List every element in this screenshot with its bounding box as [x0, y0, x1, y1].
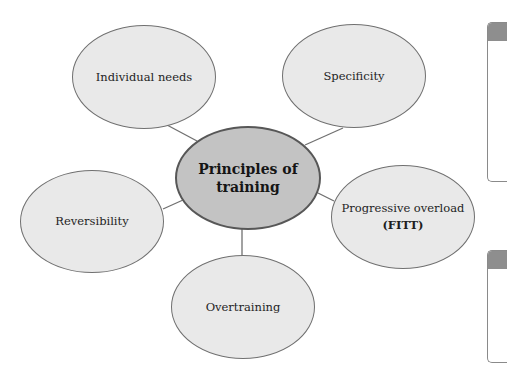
center-node-principles-of-training: Principles of training: [175, 126, 321, 230]
center-label-line1: Principles of: [192, 160, 303, 178]
side-panel-bottom-partial: [487, 250, 507, 363]
connector-reversibility: [163, 200, 183, 209]
connector-individual-needs: [167, 125, 197, 141]
side-panel-header: [488, 23, 507, 41]
side-panel-header: [488, 251, 507, 269]
node-label: Progressive overload: [336, 200, 471, 217]
connector-specificity: [305, 128, 343, 145]
node-specificity: Specificity: [282, 24, 426, 128]
node-sublabel-fitt: (FITT): [382, 217, 423, 234]
center-label-line2: training: [210, 178, 286, 196]
node-label: Reversibility: [49, 213, 134, 230]
connector-progressive-overload: [318, 193, 334, 201]
node-progressive-overload: Progressive overload (FITT): [331, 165, 475, 269]
side-panel-top-partial: [487, 22, 507, 182]
node-reversibility: Reversibility: [20, 170, 164, 273]
node-individual-needs: Individual needs: [72, 25, 216, 129]
node-label: Overtraining: [200, 299, 287, 316]
node-overtraining: Overtraining: [171, 255, 315, 359]
node-label: Specificity: [317, 68, 390, 85]
node-label: Individual needs: [90, 69, 198, 86]
